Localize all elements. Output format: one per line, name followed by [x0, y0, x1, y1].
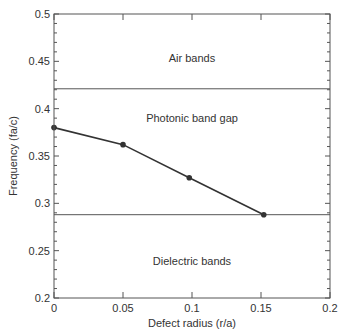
y-tick-label: 0.45	[29, 55, 50, 67]
data-point-marker	[120, 142, 126, 148]
chart-canvas: 0.20.250.30.350.40.450.500.050.10.150.2 …	[0, 0, 347, 336]
band-gap-label: Photonic band gap	[146, 112, 238, 124]
y-tick-label: 0.25	[29, 245, 50, 257]
y-axis-title: Frequency (fa/c)	[7, 116, 19, 196]
dielectric-bands-label: Dielectric bands	[153, 255, 232, 267]
x-axis-title: Defect radius (r/a)	[148, 317, 236, 329]
y-tick-label: 0.2	[35, 292, 50, 304]
x-tick-label: 0.15	[250, 302, 271, 314]
data-point-marker	[261, 212, 267, 218]
band-edge-lines	[54, 89, 330, 215]
air-bands-label: Air bands	[169, 52, 216, 64]
y-tick-label: 0.4	[35, 103, 50, 115]
x-tick-label: 0.05	[112, 302, 133, 314]
y-tick-label: 0.5	[35, 8, 50, 20]
series-line	[54, 128, 264, 215]
x-tick-label: 0.1	[184, 302, 199, 314]
x-tick-label: 0	[51, 302, 57, 314]
x-tick-label: 0.2	[322, 302, 337, 314]
data-series	[51, 125, 266, 218]
y-tick-label: 0.35	[29, 150, 50, 162]
y-tick-label: 0.3	[35, 197, 50, 209]
data-point-marker	[186, 175, 192, 181]
